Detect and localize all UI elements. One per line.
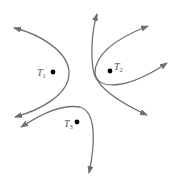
diagram-canvas: T1 T2 T3 <box>0 0 184 190</box>
diagram-svg: T1 T2 T3 <box>0 0 184 190</box>
curve-t2-inner-bottom <box>95 63 167 85</box>
label-t3: T3 <box>64 118 73 130</box>
curve-t3-down <box>80 107 93 173</box>
curve-t1-lower <box>15 73 69 117</box>
point-t2-dot <box>108 69 113 74</box>
point-t1-dot <box>51 70 56 75</box>
label-t1: T1 <box>37 67 46 79</box>
label-t2: T2 <box>114 61 123 73</box>
point-t3-dot <box>75 120 80 125</box>
curve-t2-outer-bottom <box>94 74 147 115</box>
